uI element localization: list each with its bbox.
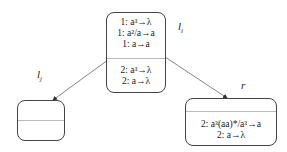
node-divider [107, 58, 165, 59]
rule: 2: a→λ [186, 130, 276, 141]
edge-center-to-left [53, 57, 112, 100]
rule: 1: a³→λ [107, 17, 165, 28]
rule: 1: a→a [107, 39, 165, 50]
label-center: li [178, 20, 183, 35]
center-bottom-section: 2: a³→λ 2: a→λ [107, 65, 165, 87]
center-top-section: 1: a³→λ 1: a²/a→a 1: a→a [107, 17, 165, 50]
rule: 2: a→λ [107, 76, 165, 87]
label-right: r [241, 79, 245, 91]
node-divider [186, 111, 276, 112]
rule: 1: a²/a→a [107, 28, 165, 39]
node-center: 1: a³→λ 1: a²/a→a 1: a→a 2: a³→λ 2: a→λ [106, 12, 166, 93]
rule: 2: a³→λ [107, 65, 165, 76]
edge-center-to-right [165, 57, 227, 98]
node-divider [18, 120, 64, 121]
label-subscript: j [40, 75, 42, 83]
label-subscript: i [181, 27, 183, 35]
node-left [17, 100, 65, 141]
label-left: lj [37, 68, 42, 83]
node-right: 2: a³(aa)*/a³→a 2: a→λ [185, 98, 277, 146]
label-text: r [241, 79, 245, 91]
rule: 2: a³(aa)*/a³→a [186, 119, 276, 130]
right-bottom-section: 2: a³(aa)*/a³→a 2: a→λ [186, 119, 276, 141]
